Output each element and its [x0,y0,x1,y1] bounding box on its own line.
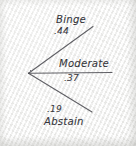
branch-label-abstain: Abstain [44,116,84,127]
branch-probability-moderate: .37 [64,73,79,83]
branch-label-binge: Binge [56,14,86,25]
branch-probability-binge: .44 [54,26,69,36]
sketch-canvas: Binge .44 Moderate .37 .19 Abstain [0,0,136,146]
branch-probability-abstain: .19 [47,104,62,114]
branch-label-moderate: Moderate [59,58,109,69]
